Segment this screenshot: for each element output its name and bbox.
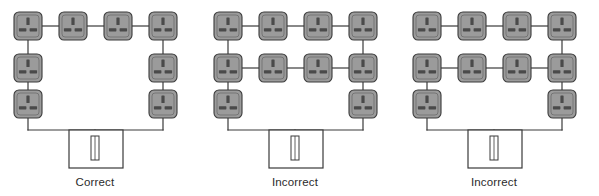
socket-neutral-slot <box>553 70 561 73</box>
socket-body <box>149 12 177 40</box>
socket-earth-slot <box>26 60 29 68</box>
socket-neutral-slot <box>19 28 27 31</box>
socket-top-3[interactable] <box>503 12 531 40</box>
socket-neutral-slot <box>19 70 27 73</box>
socket-neutral-slot <box>219 28 227 31</box>
socket-earth-slot <box>361 60 364 68</box>
socket-live-slot <box>564 106 572 109</box>
socket-live-slot <box>564 28 572 31</box>
socket-neutral-slot <box>508 28 516 31</box>
socket-top-1[interactable] <box>14 12 42 40</box>
socket-live-slot <box>429 106 437 109</box>
ring-circuit-figure: CorrectIncorrectIncorrect <box>0 0 599 196</box>
socket-right-bottom[interactable] <box>149 90 177 118</box>
socket-mid-3[interactable] <box>503 54 531 82</box>
socket-live-slot <box>30 106 37 109</box>
socket-top-1[interactable] <box>413 12 441 40</box>
socket-earth-slot <box>560 96 563 104</box>
socket-live-slot <box>75 28 83 31</box>
socket-body <box>259 54 287 82</box>
socket-body <box>104 12 132 40</box>
socket-body <box>548 54 576 82</box>
socket-top-2[interactable] <box>59 12 87 40</box>
socket-mid-4[interactable] <box>349 54 377 82</box>
socket-left-bottom[interactable] <box>214 90 242 118</box>
panel-2: Incorrect <box>214 12 377 188</box>
socket-earth-slot <box>515 60 518 68</box>
socket-body <box>214 54 242 82</box>
socket-neutral-slot <box>219 106 227 109</box>
socket-body <box>304 54 332 82</box>
socket-right-mid[interactable] <box>149 54 177 82</box>
socket-live-slot <box>120 28 128 31</box>
socket-live-slot <box>474 70 482 73</box>
socket-mid-3[interactable] <box>304 54 332 82</box>
socket-mid-2[interactable] <box>259 54 287 82</box>
socket-neutral-slot <box>463 28 471 31</box>
socket-body <box>214 90 242 118</box>
sockets-group <box>214 12 377 118</box>
socket-body <box>59 12 87 40</box>
socket-neutral-slot <box>309 70 317 73</box>
socket-body <box>413 90 441 118</box>
socket-earth-slot <box>361 96 364 104</box>
socket-right-bottom[interactable] <box>349 90 377 118</box>
socket-body <box>413 12 441 40</box>
socket-earth-slot <box>26 18 29 26</box>
socket-live-slot <box>275 70 283 73</box>
socket-top-1[interactable] <box>214 12 242 40</box>
diagram-canvas: CorrectIncorrectIncorrect <box>0 0 599 196</box>
consumer-unit[interactable] <box>269 130 323 168</box>
socket-neutral-slot <box>109 28 117 31</box>
socket-earth-slot <box>425 96 428 104</box>
socket-body <box>458 54 486 82</box>
socket-mid-4[interactable] <box>548 54 576 82</box>
socket-top-4[interactable] <box>149 12 177 40</box>
socket-neutral-slot <box>508 70 516 73</box>
socket-top-3[interactable] <box>304 12 332 40</box>
socket-body <box>503 54 531 82</box>
socket-neutral-slot <box>219 70 227 73</box>
socket-earth-slot <box>470 60 473 68</box>
socket-right-bottom[interactable] <box>548 90 576 118</box>
socket-earth-slot <box>226 60 229 68</box>
socket-left-bottom[interactable] <box>14 90 42 118</box>
socket-earth-slot <box>425 60 428 68</box>
socket-live-slot <box>365 70 373 73</box>
socket-body <box>548 12 576 40</box>
consumer-unit[interactable] <box>69 130 123 168</box>
socket-earth-slot <box>425 18 428 26</box>
socket-body <box>349 54 377 82</box>
panel-caption: Incorrect <box>471 176 518 188</box>
panel-3: Incorrect <box>413 12 576 188</box>
socket-neutral-slot <box>154 28 162 31</box>
socket-mid-1[interactable] <box>214 54 242 82</box>
socket-left-mid[interactable] <box>14 54 42 82</box>
socket-top-4[interactable] <box>548 12 576 40</box>
socket-mid-2[interactable] <box>458 54 486 82</box>
socket-earth-slot <box>271 60 274 68</box>
socket-body <box>458 12 486 40</box>
socket-earth-slot <box>161 96 164 104</box>
consumer-unit[interactable] <box>468 130 522 168</box>
socket-live-slot <box>564 70 572 73</box>
socket-top-4[interactable] <box>349 12 377 40</box>
panel-caption: Correct <box>76 176 115 188</box>
socket-top-3[interactable] <box>104 12 132 40</box>
socket-top-2[interactable] <box>458 12 486 40</box>
socket-live-slot <box>320 28 328 31</box>
socket-earth-slot <box>271 18 274 26</box>
socket-live-slot <box>230 106 238 109</box>
socket-neutral-slot <box>354 70 362 73</box>
socket-neutral-slot <box>309 28 317 31</box>
socket-neutral-slot <box>354 106 362 109</box>
socket-left-bottom[interactable] <box>413 90 441 118</box>
socket-body <box>149 90 177 118</box>
socket-earth-slot <box>560 18 563 26</box>
socket-top-2[interactable] <box>259 12 287 40</box>
socket-live-slot <box>365 106 373 109</box>
socket-live-slot <box>519 70 527 73</box>
socket-body <box>548 90 576 118</box>
socket-mid-1[interactable] <box>413 54 441 82</box>
socket-earth-slot <box>361 18 364 26</box>
